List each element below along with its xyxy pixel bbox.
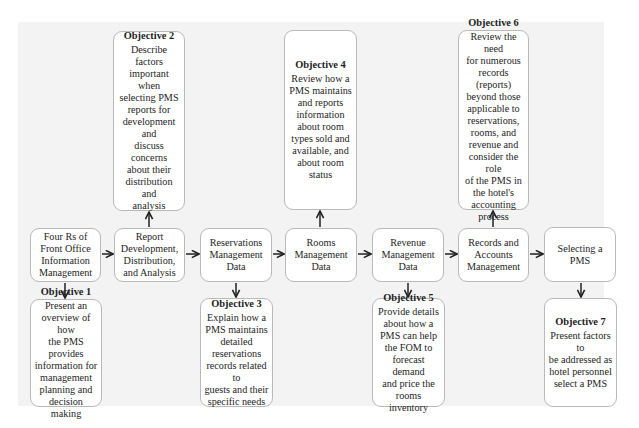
arrows-layer xyxy=(0,0,639,428)
